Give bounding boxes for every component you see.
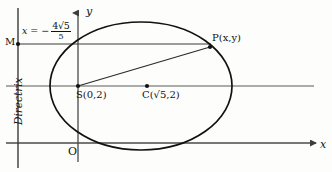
point-label-s: S(0,2) <box>76 90 107 100</box>
directrix-equation-variable: x <box>22 26 27 36</box>
point-label-m: M <box>5 37 15 47</box>
point-m-dot <box>16 42 20 46</box>
x-axis-label: x <box>320 139 326 150</box>
point-p-dot <box>208 45 212 49</box>
directrix-caption: Directrix <box>13 65 24 137</box>
directrix-equation-equals: = <box>30 26 38 36</box>
point-label-c: C(√5,2) <box>142 90 180 100</box>
segment-sp <box>78 47 210 86</box>
y-axis-label: y <box>86 6 92 17</box>
origin-label: O <box>68 146 77 157</box>
directrix-equation-numerator: 4√5 <box>51 21 70 32</box>
point-s-dot <box>76 84 80 88</box>
directrix-equation-sign: − <box>41 26 49 36</box>
point-label-p: P(x,y) <box>212 33 241 43</box>
point-c-dot <box>145 84 149 88</box>
directrix-equation-denominator: 5 <box>58 32 63 41</box>
ellipse-diagram: y x O M S(0,2) C(√5,2) P(x,y) Directrix … <box>0 0 332 172</box>
directrix-equation: x = − 4√5 5 <box>22 21 71 41</box>
directrix-equation-fraction: 4√5 5 <box>51 21 70 41</box>
